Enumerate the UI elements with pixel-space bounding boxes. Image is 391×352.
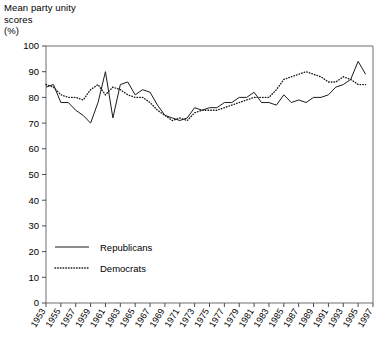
party-unity-line-chart: Mean party unity scores (%) 010203040506… — [0, 0, 391, 352]
y-axis-tick-label: 50 — [28, 169, 39, 180]
y-axis-tick-label: 100 — [23, 40, 39, 51]
legend-label-democrats: Democrats — [100, 263, 146, 274]
y-axis-tick-label: 60 — [28, 143, 39, 154]
y-axis-tick-label: 20 — [28, 246, 39, 257]
chart-plot-area: 0102030405060708090100195319551957195919… — [0, 0, 391, 352]
legend-label-republicans: Republicans — [100, 242, 153, 253]
y-axis-tick-label: 90 — [28, 66, 39, 77]
y-axis-tick-label: 30 — [28, 220, 39, 231]
y-axis-tick-label: 80 — [28, 92, 39, 103]
y-axis-tick-label: 70 — [28, 118, 39, 129]
y-axis-tick-label: 40 — [28, 195, 39, 206]
x-axis-tick-label: 1997 — [356, 307, 375, 329]
series-line-republicans — [46, 61, 366, 123]
y-axis-tick-label: 10 — [28, 272, 39, 283]
